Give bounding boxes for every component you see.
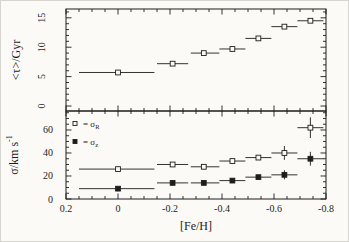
legend-label-sigma-z: = σz bbox=[83, 137, 98, 148]
x-tick-label: -0.6 bbox=[266, 203, 282, 214]
mean-age-point bbox=[116, 70, 121, 75]
mean-age-point bbox=[308, 18, 313, 23]
x-tick-label: -0.2 bbox=[162, 203, 178, 214]
sigma-R-point bbox=[201, 164, 206, 169]
legend-label-sigma-R: = σR bbox=[83, 119, 100, 130]
sigma-z-point bbox=[282, 172, 287, 177]
y-tick-label: 15 bbox=[37, 13, 48, 23]
sigma-z-point bbox=[116, 186, 121, 191]
sigma-R-point bbox=[308, 125, 313, 130]
legend-filled-square-marker bbox=[73, 140, 77, 144]
y-tick-label: 20 bbox=[43, 170, 53, 181]
sigma-R-point bbox=[230, 159, 235, 164]
y-tick-label: 40 bbox=[43, 147, 53, 158]
mean-age-point bbox=[201, 51, 206, 56]
sigma-R-point bbox=[170, 162, 175, 167]
legend-open-square-marker bbox=[73, 122, 77, 126]
age-velocity-metallicity-figure: 051015<τ>/Gyr0.20-0.2-0.4-0.6-0.80204060… bbox=[0, 0, 349, 242]
x-tick-label: -0.4 bbox=[214, 203, 230, 214]
sigma-z-point bbox=[308, 156, 313, 161]
sigma-z-point bbox=[256, 175, 261, 180]
mean-age-point bbox=[282, 24, 287, 29]
y-tick-label: 10 bbox=[37, 42, 48, 52]
x-axis-label: [Fe/H] bbox=[180, 219, 212, 233]
sigma-R-point bbox=[116, 167, 121, 172]
x-tick-label: -0.8 bbox=[318, 203, 334, 214]
y-tick-label: 0 bbox=[37, 104, 48, 109]
y-axis-label-top: <τ>/Gyr bbox=[9, 40, 23, 80]
sigma-z-point bbox=[230, 178, 235, 183]
y-tick-label: 5 bbox=[37, 74, 48, 79]
mean-age-point bbox=[230, 47, 235, 52]
y-tick-label: 60 bbox=[43, 124, 53, 135]
two-panel-plot: 051015<τ>/Gyr0.20-0.2-0.4-0.6-0.80204060… bbox=[1, 1, 349, 242]
mean-age-point bbox=[170, 61, 175, 66]
sigma-R-point bbox=[256, 155, 261, 160]
x-tick-label: 0 bbox=[116, 203, 121, 214]
sigma-R-point bbox=[282, 151, 287, 156]
y-tick-label: 0 bbox=[48, 194, 53, 205]
mean-age-point bbox=[256, 36, 261, 41]
y-axis-label-bottom: σ/km s-1 bbox=[5, 135, 22, 174]
sigma-z-point bbox=[201, 180, 206, 185]
sigma-z-point bbox=[170, 180, 175, 185]
x-tick-label: 0.2 bbox=[60, 203, 73, 214]
